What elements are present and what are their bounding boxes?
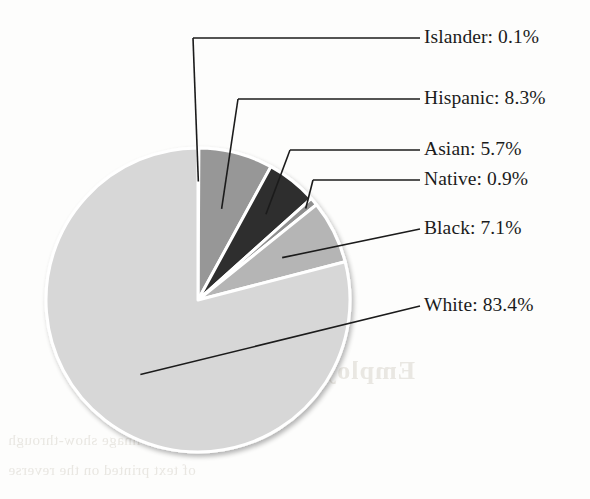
- slice-label-islander: Islander: 0.1%: [424, 26, 539, 48]
- slice-label-hispanic: Hispanic: 8.3%: [424, 87, 546, 109]
- slice-label-white: White: 83.4%: [424, 294, 534, 316]
- pie-chart-graphic: [0, 0, 590, 499]
- slice-label-native: Native: 0.9%: [424, 168, 528, 190]
- slice-label-asian: Asian: 5.7%: [424, 138, 522, 160]
- pie-chart-page: Employment a mirror-image show-through o…: [0, 0, 590, 499]
- pie-slice-group: [46, 148, 350, 452]
- slice-label-black: Black: 7.1%: [424, 217, 522, 239]
